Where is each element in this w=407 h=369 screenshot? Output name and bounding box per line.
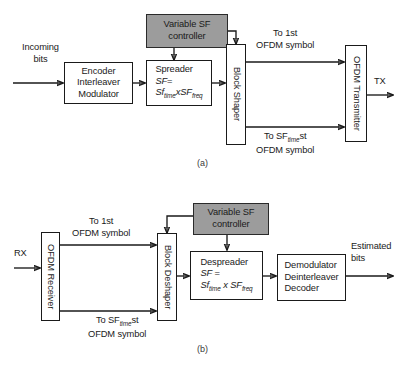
tx-output-label: TX [374,76,386,88]
estimated-bits-label: Estimated bits [351,241,391,264]
incoming-bits-line1: Incoming [22,42,59,52]
branch-top-line2-rx: OFDM symbol [72,228,130,238]
panel-b-caption: (b) [197,344,208,354]
branch-bottom-label-tx: To SFtimest OFDM symbol [256,131,314,157]
demodulator-line3: Decoder [285,283,319,293]
demodulator-deinterleaver-decoder-block[interactable]: Demodulator Deinterleaver Decoder [277,254,346,301]
despreader-eq-lhs: SF [200,268,212,278]
rx-input-label: RX [14,248,27,260]
despreader-f1-base: Sf [200,280,209,290]
incoming-bits-label: Incoming bits [22,42,59,65]
branch-top-line1-tx: To 1st [273,28,297,38]
despreader-f2-sub: freq [242,285,253,292]
branch-top-line2-tx: OFDM symbol [256,40,314,50]
branch-bottom-suffix-rx: st [131,315,138,325]
despreader-block[interactable]: Despreader SF = Sftime x SFfreq [190,251,263,300]
incoming-bits-line2: bits [33,54,47,64]
encoder-line1: Encoder [82,66,116,76]
despreader-eq-sign: = [215,268,220,278]
controller-label-line1: Variable SF [164,19,211,29]
spreader-f2-base: SF [180,87,192,97]
demodulator-line2: Deinterleaver [285,272,339,282]
despreader-f1-sub: time [209,285,221,292]
despreader-f2-base: SF [230,280,242,290]
block-diagram-figure: Incoming bits Variable SF controller Enc… [0,0,407,369]
spreader-title: Spreader [155,64,192,74]
despreader-times: x [223,280,228,290]
branch-bottom-prefix-tx: To SF [264,131,288,141]
ofdm-receiver-label: OFDM Receiver [43,244,59,309]
variable-sf-controller-rx[interactable]: Variable SF controller [193,203,269,235]
estimated-bits-line2: bits [351,253,365,263]
branch-bottom-label-rx: To SFtimest OFDM symbol [88,315,146,341]
branch-bottom-prefix-rx: To SF [96,315,120,325]
estimated-bits-line1: Estimated [351,241,391,251]
panel-b-caption-text: (b) [197,344,208,354]
branch-bottom-sub-tx: time [288,136,300,143]
encoder-line2: Interleaver [77,77,120,87]
ofdm-transmitter-block[interactable]: OFDM Transmitter [345,45,367,142]
tx-output-text: TX [374,76,386,86]
branch-top-line1-rx: To 1st [89,216,113,226]
encoder-interleaver-modulator-block[interactable]: Encoder Interleaver Modulator [64,62,133,104]
encoder-line3: Modulator [78,89,118,99]
variable-sf-controller-tx[interactable]: Variable SF controller [146,14,228,48]
spreader-f1-base: Sf [155,87,164,97]
branch-bottom-line2-rx: OFDM symbol [88,329,146,339]
block-deshaper-label: Block Deshaper [159,245,175,309]
ofdm-receiver-block[interactable]: OFDM Receiver [41,232,60,321]
spreader-f2-sub: freq [192,92,203,99]
block-shaper-block[interactable]: Block Shaper [226,44,246,145]
controller-label-line2: controller [168,31,205,41]
spreader-f1-sub: time [164,92,176,99]
branch-bottom-sub-rx: time [120,320,132,327]
demodulator-line1: Demodulator [285,260,337,270]
controller-rx-line2: controller [212,219,249,229]
branch-top-label-tx: To 1st OFDM symbol [256,28,314,51]
rx-input-text: RX [14,248,27,258]
despreader-title: Despreader [200,257,248,267]
branch-top-label-rx: To 1st OFDM symbol [72,216,130,239]
controller-rx-line1: Variable SF [208,207,255,217]
branch-bottom-suffix-tx: st [299,131,306,141]
panel-a-caption: (a) [197,158,208,168]
block-shaper-label: Block Shaper [228,67,244,121]
spreader-eq-lhs: SF [155,76,167,86]
branch-bottom-line2-tx: OFDM symbol [256,145,314,155]
ofdm-transmitter-label: OFDM Transmitter [348,56,364,131]
block-deshaper-block[interactable]: Block Deshaper [157,233,177,321]
spreader-eq-sign: = [167,76,172,86]
spreader-block[interactable]: Spreader SF= SftimexSFfreq [146,60,212,106]
panel-a-caption-text: (a) [197,158,208,168]
